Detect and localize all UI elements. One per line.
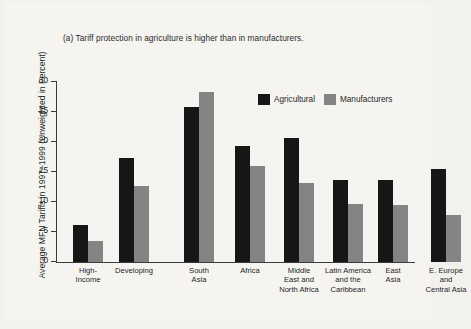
bar-group — [333, 82, 363, 262]
x-axis-line — [56, 262, 415, 263]
bar-group — [119, 82, 149, 262]
y-axis-line — [56, 82, 57, 262]
bar-manufacturers — [250, 166, 265, 262]
bar-agricultural — [184, 107, 199, 262]
chart-title: (a) Tariff protection in agriculture is … — [63, 33, 393, 43]
bar-agricultural — [378, 180, 393, 262]
bar-manufacturers — [134, 186, 149, 262]
x-axis-category-label: E. Europe and Central Asia — [410, 266, 471, 294]
plot-area: 051015202530 — [56, 82, 415, 262]
bar-group — [378, 82, 408, 262]
bar-manufacturers — [446, 215, 461, 262]
bar-agricultural — [235, 146, 250, 262]
bar-group — [235, 82, 265, 262]
bar-agricultural — [119, 158, 134, 262]
y-tick: 15 — [51, 171, 57, 172]
bar-agricultural — [333, 180, 348, 262]
bar-agricultural — [73, 225, 88, 262]
y-tick: 30 — [51, 81, 57, 82]
bar-agricultural — [284, 138, 299, 262]
bar-group — [431, 82, 461, 262]
y-tick-label: 15 — [39, 165, 48, 175]
y-tick: 10 — [51, 201, 57, 202]
y-tick: 25 — [51, 111, 57, 112]
x-axis-category-label: Developing — [98, 266, 170, 275]
y-tick: 5 — [51, 231, 57, 232]
bar-group — [73, 82, 103, 262]
bar-manufacturers — [393, 205, 408, 262]
bar-group — [184, 82, 214, 262]
y-tick-label: 20 — [39, 135, 48, 145]
bar-manufacturers — [299, 183, 314, 262]
y-tick: 0 — [51, 261, 57, 262]
y-tick-label: 10 — [39, 195, 48, 205]
y-tick-label: 5 — [43, 225, 48, 235]
bar-manufacturers — [88, 241, 103, 262]
bar-manufacturers — [199, 92, 214, 262]
y-tick-label: 30 — [39, 75, 48, 85]
bar-agricultural — [431, 169, 446, 262]
y-tick-label: 25 — [39, 105, 48, 115]
y-tick-label: 0 — [43, 255, 48, 265]
y-tick: 20 — [51, 141, 57, 142]
bar-manufacturers — [348, 204, 363, 262]
bar-group — [284, 82, 314, 262]
